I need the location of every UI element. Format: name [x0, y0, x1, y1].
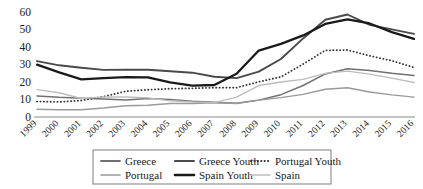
x-tick-label: 2000: [40, 118, 61, 139]
x-tick-label: 2002: [84, 118, 105, 139]
y-tick-label: 30: [20, 58, 32, 70]
x-tick-label: 2013: [328, 118, 349, 139]
x-tick-label: 2001: [62, 118, 83, 139]
x-tick-label: 1999: [18, 118, 39, 139]
x-tick-label: 2010: [262, 118, 283, 139]
series-lines: [37, 14, 414, 109]
chart-legend: GreeceGreece YouthPortugal YouthPortugal…: [93, 150, 342, 184]
x-tick-label: 2005: [151, 118, 172, 139]
x-tick-label: 2009: [240, 118, 261, 139]
series-line-greece-youth: [37, 14, 414, 78]
x-tick-label: 2016: [395, 118, 416, 139]
x-tick-label: 2011: [284, 118, 304, 138]
x-tick-label: 2006: [173, 118, 194, 139]
y-tick-label: 60: [20, 6, 32, 18]
legend-label-spain[interactable]: Spain: [275, 169, 301, 181]
legend-label-spain-youth[interactable]: Spain Youth: [199, 169, 253, 181]
x-tick-label: 2004: [129, 118, 150, 139]
y-tick-label: 40: [20, 41, 32, 53]
x-tick-label: 2003: [107, 118, 128, 139]
y-tick-label: 20: [20, 76, 32, 88]
series-line-spain: [37, 71, 414, 102]
series-line-portugal-youth: [37, 50, 414, 102]
x-tick-label: 2007: [195, 118, 216, 139]
x-tick-label: 2008: [217, 118, 238, 139]
x-tick-label: 2012: [306, 118, 327, 139]
chart-canvas: 0102030405060 19992000200120022003200420…: [0, 0, 423, 189]
x-tick-label: 2015: [373, 118, 394, 139]
y-tick-label: 50: [20, 23, 32, 35]
x-axis: 1999200020012002200320042005200620072008…: [18, 117, 416, 139]
y-tick-label: 10: [20, 93, 32, 105]
y-axis: 0102030405060: [20, 6, 32, 124]
legend-label-greece[interactable]: Greece: [125, 155, 156, 167]
legend-label-portugal[interactable]: Portugal: [125, 169, 162, 181]
unemployment-line-chart: 0102030405060 19992000200120022003200420…: [0, 0, 423, 189]
legend-label-portugal-youth[interactable]: Portugal Youth: [275, 155, 342, 167]
x-tick-label: 2014: [351, 118, 372, 139]
